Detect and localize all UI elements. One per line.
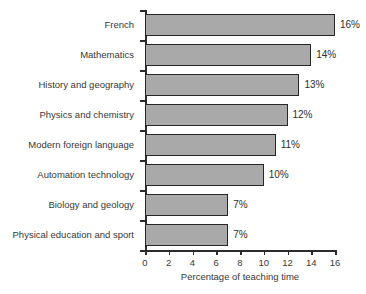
category-label: History and geography <box>0 70 140 100</box>
x-axis-title: Percentage of teaching time <box>145 271 335 282</box>
x-axis-tick-label: 14 <box>306 257 317 268</box>
x-axis-tick-label: 4 <box>190 257 195 268</box>
category-label: Mathematics <box>0 40 140 70</box>
bar[interactable] <box>145 74 299 96</box>
x-axis-tick <box>145 250 147 255</box>
x-axis-tick <box>335 250 337 255</box>
category-axis-labels: French Mathematics History and geography… <box>0 10 140 250</box>
bar[interactable] <box>145 104 288 126</box>
bar[interactable] <box>145 164 264 186</box>
bar[interactable] <box>145 44 311 66</box>
x-axis-tick-label: 10 <box>258 257 269 268</box>
category-label: Biology and geology <box>0 190 140 220</box>
bar[interactable] <box>145 134 276 156</box>
y-axis-tick <box>140 100 145 102</box>
category-label: Physics and chemistry <box>0 100 140 130</box>
bar-value-label: 7% <box>228 194 247 216</box>
bar-value-label: 10% <box>264 164 289 186</box>
category-label: Automation technology <box>0 160 140 190</box>
x-axis-tick <box>264 250 266 255</box>
x-axis-tick-label: 12 <box>282 257 293 268</box>
bar-chart: French Mathematics History and geography… <box>0 0 366 294</box>
bar-value-label: 13% <box>299 74 324 96</box>
y-axis-tick <box>140 160 145 162</box>
category-label: Modern foreign language <box>0 130 140 160</box>
x-axis-tick <box>240 250 242 255</box>
bar[interactable] <box>145 224 228 246</box>
x-axis-tick-label: 16 <box>330 257 341 268</box>
x-axis-tick-label: 6 <box>214 257 219 268</box>
y-axis-tick <box>140 40 145 42</box>
x-axis-tick <box>216 250 218 255</box>
bar-value-label: 14% <box>311 44 336 66</box>
y-axis-tick <box>140 190 145 192</box>
bar-value-label: 7% <box>228 224 247 246</box>
x-axis-tick-label: 2 <box>166 257 171 268</box>
x-axis-tick-label: 0 <box>142 257 147 268</box>
x-axis-tick-label: 8 <box>237 257 242 268</box>
x-axis-tick <box>311 250 313 255</box>
bar-value-label: 16% <box>335 14 360 36</box>
y-axis-tick <box>140 70 145 72</box>
y-axis-tick <box>140 220 145 222</box>
x-axis-tick <box>193 250 195 255</box>
x-axis-line: 0246810121416 <box>145 250 335 252</box>
category-label: Physical education and sport <box>0 220 140 250</box>
plot-area: 16% 14% 13% 12% 11% 10% 7% 7% <box>145 10 360 250</box>
category-label: French <box>0 10 140 40</box>
bar[interactable] <box>145 14 335 36</box>
bar-value-label: 12% <box>288 104 313 126</box>
x-axis-tick <box>288 250 290 255</box>
bar[interactable] <box>145 194 228 216</box>
y-axis-tick <box>140 10 145 12</box>
y-axis-tick <box>140 130 145 132</box>
x-axis-tick <box>169 250 171 255</box>
bar-value-label: 11% <box>276 134 300 156</box>
